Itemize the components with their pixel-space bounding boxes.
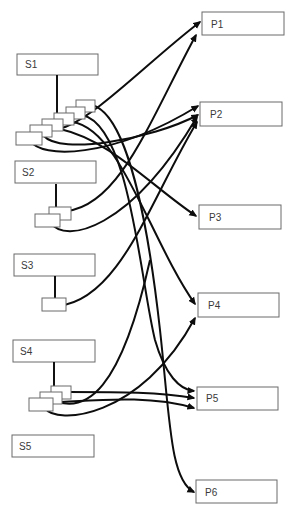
source-node-s2[interactable]: S2: [15, 161, 96, 183]
source-label: S2: [22, 167, 35, 178]
s4-port-stack: [29, 386, 71, 411]
target-node-p2[interactable]: P2: [200, 102, 282, 126]
target-label: P2: [210, 109, 223, 120]
target-node-p3[interactable]: P3: [199, 205, 281, 229]
target-label: P1: [211, 19, 224, 30]
target-node-p5[interactable]: P5: [197, 387, 278, 410]
target-label: P6: [205, 487, 218, 498]
s4-port-3[interactable]: [29, 398, 53, 411]
link-s1-p6: [92, 105, 194, 492]
s3-port-stack: [42, 298, 66, 311]
source-label: S1: [25, 59, 38, 70]
s2-port-stack: [35, 207, 71, 227]
target-label: P4: [208, 300, 221, 311]
target-node-p4[interactable]: P4: [198, 293, 279, 317]
target-label: P3: [209, 212, 222, 223]
link-s4-p5b: [58, 399, 194, 408]
source-label: S5: [19, 441, 32, 452]
source-node-s1[interactable]: S1: [17, 54, 98, 75]
s1-port-stack: [16, 100, 95, 145]
source-node-s4[interactable]: S4: [13, 340, 95, 362]
s1-port-1[interactable]: [16, 132, 42, 145]
source-label: S4: [20, 346, 33, 357]
target-node-p1[interactable]: P1: [202, 12, 284, 35]
source-node-s3[interactable]: S3: [14, 254, 95, 276]
source-node-s5[interactable]: S5: [12, 435, 94, 457]
mapping-diagram: S1 S2 S3 S4 S5 P1 P2 P3 P4 P5 P6: [0, 0, 295, 518]
target-node-p6[interactable]: P6: [196, 480, 277, 503]
target-label: P5: [206, 393, 219, 404]
s3-port-1[interactable]: [42, 298, 66, 311]
source-label: S3: [21, 260, 34, 271]
s2-port-2[interactable]: [35, 214, 60, 227]
